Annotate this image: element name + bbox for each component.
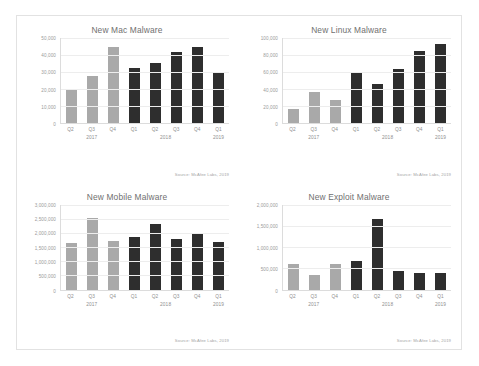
- bar-q2-2017: [288, 109, 300, 123]
- x-axis-year-label: 2019: [430, 133, 451, 142]
- bar-q1-2018: [351, 261, 363, 290]
- source-note-mac: Source: McAfee Labs, 2019: [175, 172, 229, 177]
- bar-q4-2017: [330, 100, 342, 123]
- x-axis-year-label: 2019: [430, 300, 451, 309]
- report-page-frame: New Mac Malware 010,00020,00030,00040,00…: [16, 15, 462, 350]
- plot-wrap-mobile: 0500,0001,000,0001,500,0002,000,0002,500…: [25, 205, 231, 309]
- year-labels-mobile: 201720182019: [60, 300, 229, 309]
- chart-title-linux: New Linux Malware: [245, 25, 453, 36]
- chart-title-mac: New Mac Malware: [23, 25, 231, 36]
- gridline: [61, 72, 229, 73]
- bar-slot: [388, 38, 409, 123]
- x-axis-year-label: 2017: [60, 300, 123, 309]
- x-axis-year-label: 2019: [208, 133, 229, 142]
- y-tick-label: 0: [53, 122, 56, 127]
- plot-area-linux: [282, 38, 451, 124]
- x-axis-year-label: 2018: [345, 300, 430, 309]
- gridline: [283, 38, 451, 39]
- gridline: [283, 226, 451, 227]
- y-axis-mobile: 0500,0001,000,0001,500,0002,000,0002,500…: [25, 205, 59, 291]
- chart-title-mobile: New Mobile Malware: [23, 192, 231, 203]
- year-labels-mac: 201720182019: [60, 133, 229, 142]
- bar-q3-2017: [87, 218, 99, 290]
- bar-q4-2018: [192, 47, 204, 124]
- gridline: [283, 268, 451, 269]
- y-tick-label: 1,500,000: [35, 245, 56, 250]
- gridline: [61, 38, 229, 39]
- year-labels-exploit: 201720182019: [282, 300, 451, 309]
- y-tick-label: 500,000: [39, 274, 56, 279]
- y-tick-label: 3,000,000: [35, 202, 56, 207]
- x-axis-year-label: 2017: [60, 133, 123, 142]
- bar-q3-2018: [171, 52, 183, 123]
- bar-q3-2017: [309, 275, 321, 289]
- y-axis-exploit: 0500,0001,000,0001,500,0002,000,000: [247, 205, 281, 291]
- x-axis-year-label: 2019: [208, 300, 229, 309]
- y-tick-label: 500,000: [261, 267, 278, 272]
- x-axis-year-label: 2018: [123, 133, 208, 142]
- chart-title-exploit: New Exploit Malware: [245, 192, 453, 203]
- bar-q3-2017: [87, 76, 99, 123]
- gridline: [61, 233, 229, 234]
- bar-slot: [208, 38, 229, 123]
- y-tick-label: 40,000: [263, 87, 278, 92]
- source-note-mobile: Source: McAfee Labs, 2019: [175, 338, 229, 343]
- y-tick-label: 50,000: [41, 36, 56, 41]
- y-tick-label: 10,000: [41, 104, 56, 109]
- bar-slot: [166, 38, 187, 123]
- bar-slot: [103, 38, 124, 123]
- gridline: [61, 219, 229, 220]
- plot-wrap-exploit: 0500,0001,000,0001,500,0002,000,000 Q2Q3…: [247, 205, 453, 309]
- bar-q1-2018: [129, 68, 141, 123]
- bar-q3-2018: [393, 271, 405, 289]
- bar-slot: [325, 38, 346, 123]
- bar-q4-2017: [108, 47, 120, 123]
- bar-slot: [304, 38, 325, 123]
- bar-slot: [283, 38, 304, 123]
- y-tick-label: 1,500,000: [257, 224, 278, 229]
- y-tick-label: 1,000,000: [35, 259, 56, 264]
- bar-slot: [430, 38, 451, 123]
- bar-q1-2019: [213, 72, 225, 123]
- bar-q1-2019: [435, 273, 447, 290]
- x-axis-year-label: 2018: [123, 300, 208, 309]
- bar-slot: [346, 38, 367, 123]
- bar-slot: [124, 38, 145, 123]
- bar-q2-2018: [372, 219, 384, 290]
- gridline: [61, 205, 229, 206]
- plot-area-mac: [60, 38, 229, 124]
- y-tick-label: 0: [53, 288, 56, 293]
- x-axis-year-label: 2017: [282, 300, 345, 309]
- plot-wrap-linux: 020,00040,00060,00080,000100,000 Q2Q3Q4Q…: [247, 38, 453, 142]
- bar-q4-2017: [108, 241, 120, 289]
- bar-q3-2018: [393, 69, 405, 123]
- gridline: [61, 106, 229, 107]
- y-tick-label: 20,000: [41, 87, 56, 92]
- gridline: [61, 261, 229, 262]
- chart-panel-exploit: New Exploit Malware 0500,0001,000,0001,5…: [239, 183, 461, 350]
- bar-q2-2017: [66, 243, 78, 290]
- bar-slot: [145, 38, 166, 123]
- y-tick-label: 2,500,000: [35, 216, 56, 221]
- gridline: [283, 205, 451, 206]
- y-tick-label: 1,000,000: [257, 245, 278, 250]
- y-tick-label: 80,000: [263, 53, 278, 58]
- source-note-linux: Source: McAfee Labs, 2019: [397, 172, 451, 177]
- bar-slot: [367, 38, 388, 123]
- bar-slot: [82, 38, 103, 123]
- y-tick-label: 30,000: [41, 70, 56, 75]
- bar-slot: [409, 38, 430, 123]
- bar-q1-2019: [213, 242, 225, 290]
- gridline: [283, 55, 451, 56]
- y-tick-label: 20,000: [263, 104, 278, 109]
- y-tick-label: 2,000,000: [35, 231, 56, 236]
- bar-slot: [61, 38, 82, 123]
- bar-q4-2018: [414, 51, 426, 123]
- gridline: [283, 89, 451, 90]
- bar-q1-2018: [351, 72, 363, 123]
- bar-slot: [187, 38, 208, 123]
- gridline: [283, 72, 451, 73]
- source-note-exploit: Source: McAfee Labs, 2019: [397, 338, 451, 343]
- y-tick-label: 2,000,000: [257, 202, 278, 207]
- bar-q1-2018: [129, 237, 141, 290]
